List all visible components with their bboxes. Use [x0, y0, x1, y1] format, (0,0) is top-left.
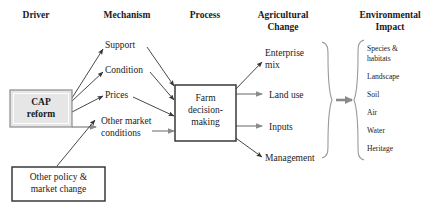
connector-cap-to-support	[72, 49, 103, 98]
environmental-impact-item-species-habitats-line1: Species &	[367, 44, 398, 53]
column-header-mechanism: Mechanism	[104, 10, 151, 20]
connector-cap-to-prices	[72, 96, 103, 112]
environmental-impact-item-heritage: Heritage	[367, 144, 394, 153]
mechanism-item-prices: Prices	[105, 90, 129, 100]
column-header-process: Process	[190, 10, 221, 20]
mechanism-item-other-market-conditions-line2: conditions	[101, 128, 141, 138]
column-header-driver: Driver	[23, 10, 51, 20]
mechanism-item-other-market-conditions-line1: Other market	[101, 116, 152, 126]
mechanism-item-condition: Condition	[105, 65, 143, 75]
connector-farm-to-management	[233, 136, 262, 157]
environmental-impact-item-air: Air	[367, 108, 378, 117]
column-header-agricultural-change-line1: Agricultural	[258, 10, 309, 20]
agricultural-change-item-enterprise-mix-line1: Enterprise	[265, 48, 304, 58]
farm-decision-making-box[interactable]: Farm decision- making	[175, 85, 236, 141]
other-policy-label-line1: Other policy &	[30, 172, 88, 182]
cap-reform-box[interactable]: CAP reform	[10, 90, 72, 127]
other-policy-label-line2: market change	[31, 184, 87, 194]
agricultural-change-item-inputs: Inputs	[269, 122, 293, 132]
column-header-environmental-impact-line2: Impact	[375, 22, 405, 32]
farm-decision-label-line2: decision-	[188, 105, 223, 115]
flow-diagram: Driver Mechanism Process Agricultural Ch…	[0, 0, 445, 212]
farm-decision-label-line3: making	[191, 117, 220, 127]
environmental-impact-item-water: Water	[367, 126, 385, 135]
cap-reform-label-line2: reform	[27, 109, 55, 119]
connector-prices-to-farm	[133, 97, 174, 116]
agricultural-change-item-enterprise-mix-line2: mix	[265, 60, 280, 70]
agricultural-change-item-land-use: Land use	[269, 90, 304, 100]
environmental-impact-item-landscape: Landscape	[367, 72, 400, 81]
environmental-impact-brace	[354, 40, 364, 160]
connector-support-to-farm	[147, 47, 174, 86]
connector-farm-to-enterprise-mix	[233, 62, 262, 92]
cap-reform-label-line1: CAP	[31, 97, 51, 107]
agricultural-change-item-management: Management	[265, 153, 315, 163]
connector-condition-to-farm	[150, 72, 174, 100]
column-header-environmental-impact-line1: Environmental	[359, 10, 420, 20]
column-header-agricultural-change-line2: Change	[267, 22, 298, 32]
mechanism-item-support: Support	[105, 40, 135, 50]
agricultural-change-brace	[322, 42, 332, 158]
farm-decision-label-line1: Farm	[195, 93, 216, 103]
connector-cap-to-condition	[72, 72, 103, 101]
environmental-impact-item-soil: Soil	[367, 90, 379, 99]
environmental-impact-item-species-habitats-line2: habitats	[367, 54, 391, 63]
other-policy-market-change-box[interactable]: Other policy & market change	[12, 167, 105, 201]
